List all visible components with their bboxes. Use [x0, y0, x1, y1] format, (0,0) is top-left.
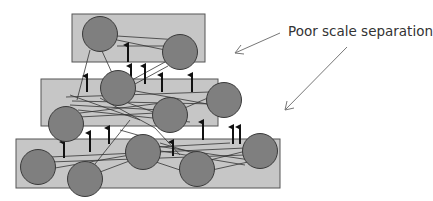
annotation-label: Poor scale separation [288, 23, 433, 39]
node [243, 134, 278, 169]
node [83, 17, 118, 52]
node [163, 35, 198, 70]
node [21, 150, 56, 185]
node [153, 98, 188, 133]
node [207, 83, 242, 118]
node [180, 152, 215, 187]
node [49, 107, 84, 142]
annotation-arrows [235, 33, 347, 110]
node [68, 162, 103, 197]
node [101, 71, 136, 106]
node [126, 135, 161, 170]
